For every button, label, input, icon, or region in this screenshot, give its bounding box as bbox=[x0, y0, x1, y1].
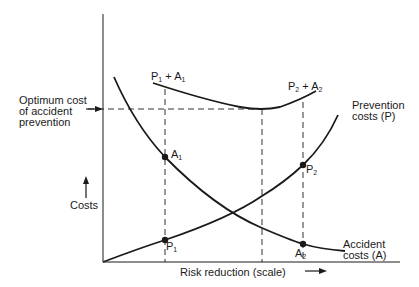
total-cost-label-1: P1 + A1 bbox=[151, 70, 185, 82]
y-axis-label: Costs bbox=[70, 199, 98, 211]
accident-costs-label: Accident costs (A) bbox=[343, 239, 386, 261]
point-p2-label: P2 bbox=[306, 163, 317, 175]
prevention-costs-label: Prevention costs (P) bbox=[352, 100, 405, 122]
risk-arrow-right-icon bbox=[319, 268, 327, 274]
x-axis-label: Risk reduction (scale) bbox=[180, 266, 286, 278]
optimum-label: Optimum cost of accident prevention bbox=[19, 95, 87, 128]
point-a1 bbox=[162, 154, 168, 160]
optimum-arrow-head-icon bbox=[95, 106, 103, 112]
optimum-label-line3: prevention bbox=[19, 117, 87, 128]
point-a1-label: A1 bbox=[171, 148, 182, 160]
point-p1-label: P1 bbox=[166, 240, 177, 252]
point-a2-label: A2 bbox=[295, 247, 306, 259]
total-cost-label-2: P2 + A2 bbox=[288, 80, 322, 92]
costs-arrow-up-icon bbox=[83, 176, 89, 184]
